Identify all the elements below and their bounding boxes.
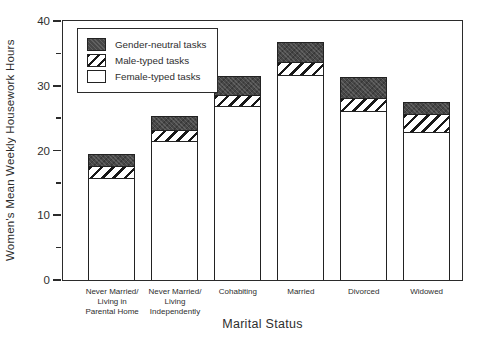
x-tick-label-never-married-living-in-parental-home: Never Married/Living inParental Home (85, 287, 138, 317)
x-tick-label-line: Never Married/ (149, 287, 202, 297)
y-major-tick-30 (53, 85, 61, 87)
y-major-tick-0 (53, 279, 61, 281)
plot-area: 010203040 Gender-neutral tasks Male-type… (62, 20, 463, 281)
y-tick-label-40: 40 (17, 15, 50, 27)
y-minor-tick-35 (56, 53, 61, 55)
x-tick-label-line: Parental Home (85, 307, 138, 317)
segment-female-typed-widowed (404, 133, 449, 280)
y-tick-label-0: 0 (17, 274, 50, 286)
segment-female-typed-cohabiting (215, 107, 260, 280)
x-tick-label-line: Independently (149, 307, 202, 317)
segment-male-typed-widowed (404, 115, 449, 133)
segment-male-typed-never-married-living-independently (152, 131, 197, 142)
legend-label-gender-neutral: Gender-neutral tasks (115, 39, 206, 50)
x-tick-label-cohabiting: Cohabiting (219, 287, 257, 297)
female-typed-swatch-icon (87, 70, 106, 83)
x-tick-label-line: Divorced (348, 287, 380, 297)
gender-neutral-swatch-icon (87, 38, 106, 51)
legend-label-female-typed: Female-typed tasks (115, 71, 200, 82)
segment-male-typed-cohabiting (215, 96, 260, 107)
x-tick-label-widowed: Widowed (410, 287, 443, 297)
segment-female-typed-never-married-living-independently (152, 142, 197, 280)
y-major-tick-20 (53, 150, 61, 152)
segment-gender-neutral-widowed (404, 103, 449, 115)
y-major-tick-40 (53, 20, 61, 22)
bar-never-married-living-independently (151, 116, 198, 280)
segment-male-typed-divorced (341, 99, 386, 113)
y-axis-title: Women's Mean Weekly Housework Hours (2, 18, 18, 282)
x-tick-label-divorced: Divorced (348, 287, 380, 297)
legend-item-male-typed: Male-typed tasks (87, 54, 206, 67)
male-typed-swatch-icon (87, 54, 106, 67)
y-minor-tick-15 (56, 182, 61, 184)
segment-female-typed-married (278, 76, 323, 280)
x-axis-title: Marital Status (62, 317, 463, 331)
segment-male-typed-never-married-living-in-parental-home (89, 167, 134, 179)
legend-label-male-typed: Male-typed tasks (115, 55, 189, 66)
y-tick-label-10: 10 (17, 209, 50, 221)
bar-widowed (403, 102, 450, 280)
legend: Gender-neutral tasks Male-typed tasks Fe… (77, 28, 218, 93)
x-tick-label-line: Never Married/ (85, 287, 138, 297)
y-major-tick-10 (53, 214, 61, 216)
x-tick-label-line: Living in (85, 297, 138, 307)
segment-male-typed-married (278, 63, 323, 76)
legend-item-female-typed: Female-typed tasks (87, 70, 206, 83)
segment-female-typed-never-married-living-in-parental-home (89, 179, 134, 280)
legend-item-gender-neutral: Gender-neutral tasks (87, 38, 206, 51)
y-tick-label-30: 30 (17, 80, 50, 92)
segment-female-typed-divorced (341, 112, 386, 280)
bar-divorced (340, 77, 387, 280)
x-tick-label-never-married-living-independently: Never Married/LivingIndependently (149, 287, 202, 317)
x-tick-label-married: Married (287, 287, 314, 297)
segment-gender-neutral-never-married-living-independently (152, 117, 197, 131)
segment-gender-neutral-never-married-living-in-parental-home (89, 155, 134, 167)
stacked-bar-chart-figure: Women's Mean Weekly Housework Hours 0102… (0, 0, 487, 340)
x-tick-label-line: Living (149, 297, 202, 307)
segment-gender-neutral-divorced (341, 78, 386, 99)
segment-gender-neutral-cohabiting (215, 77, 260, 96)
x-tick-label-line: Cohabiting (219, 287, 257, 297)
y-minor-tick-5 (56, 247, 61, 249)
bar-cohabiting (214, 76, 261, 280)
bar-never-married-living-in-parental-home (88, 154, 135, 280)
segment-gender-neutral-married (278, 43, 323, 63)
bar-married (277, 42, 324, 280)
y-minor-tick-25 (56, 117, 61, 119)
y-tick-label-20: 20 (17, 145, 50, 157)
x-tick-label-line: Married (287, 287, 314, 297)
x-tick-label-line: Widowed (410, 287, 443, 297)
